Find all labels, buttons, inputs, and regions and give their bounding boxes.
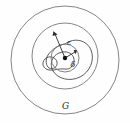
diagram-canvas: ε δ G [0,0,130,123]
figure-container: ε δ G [0,0,130,123]
delta-label: δ [71,60,76,69]
domain-label-G: G [62,101,69,111]
epsilon-label: ε [67,38,71,47]
center-point [63,56,67,60]
